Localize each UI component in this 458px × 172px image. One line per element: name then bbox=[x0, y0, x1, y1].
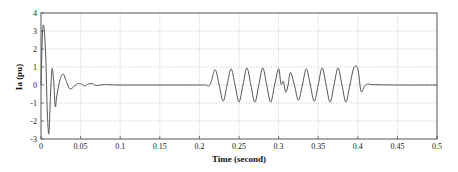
x-tick-label: 0.15 bbox=[153, 142, 167, 151]
x-tick-label: 0.3 bbox=[274, 142, 284, 151]
y-axis-label: Ia (pu) bbox=[14, 64, 24, 90]
x-axis-tick-labels: 00.050.10.150.20.250.30.350.40.450.5 bbox=[39, 142, 442, 151]
y-tick-label: 0 bbox=[33, 81, 37, 90]
x-tick-label: 0.1 bbox=[115, 142, 125, 151]
y-tick-label: -3 bbox=[30, 135, 37, 144]
y-tick-label: 2 bbox=[33, 45, 37, 54]
y-tick-label: 3 bbox=[33, 27, 37, 36]
y-tick-label: -1 bbox=[30, 99, 37, 108]
y-axis-tick-labels: 43210-1-2-3 bbox=[30, 9, 37, 144]
y-tick-label: -2 bbox=[30, 117, 37, 126]
x-tick-label: 0.5 bbox=[432, 142, 442, 151]
x-tick-label: 0.05 bbox=[74, 142, 88, 151]
x-tick-label: 0.25 bbox=[232, 142, 246, 151]
x-tick-label: 0.45 bbox=[390, 142, 404, 151]
x-tick-label: 0.2 bbox=[194, 142, 204, 151]
x-tick-label: 0 bbox=[39, 142, 43, 151]
x-tick-label: 0.35 bbox=[311, 142, 325, 151]
line-chart: 00.050.10.150.20.250.30.350.40.450.5 432… bbox=[0, 0, 458, 172]
y-tick-label: 4 bbox=[33, 9, 37, 18]
y-tick-label: 1 bbox=[33, 63, 37, 72]
grid-lines bbox=[41, 13, 437, 139]
x-axis-label: Time (second) bbox=[212, 154, 266, 164]
x-tick-label: 0.4 bbox=[353, 142, 363, 151]
